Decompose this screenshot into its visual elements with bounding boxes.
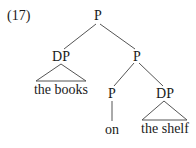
node-left-dp: DP <box>52 50 70 64</box>
node-right-p: P <box>133 50 141 64</box>
branch-root-to-dp <box>64 24 96 49</box>
node-root-p: P <box>94 9 102 23</box>
example-number: (17) <box>7 9 30 23</box>
branch-p-to-inner-dp <box>139 63 163 86</box>
triangle-inner-dp <box>142 101 187 120</box>
branch-p-to-inner-p <box>114 63 134 86</box>
terminal-on: on <box>105 123 119 137</box>
node-inner-p: P <box>108 87 116 101</box>
branch-root-to-p <box>100 24 135 49</box>
node-inner-dp: DP <box>156 87 174 101</box>
terminal-the-books: the books <box>34 83 88 97</box>
terminal-the-shelf: the shelf <box>141 122 189 136</box>
triangle-left-dp <box>36 64 86 81</box>
